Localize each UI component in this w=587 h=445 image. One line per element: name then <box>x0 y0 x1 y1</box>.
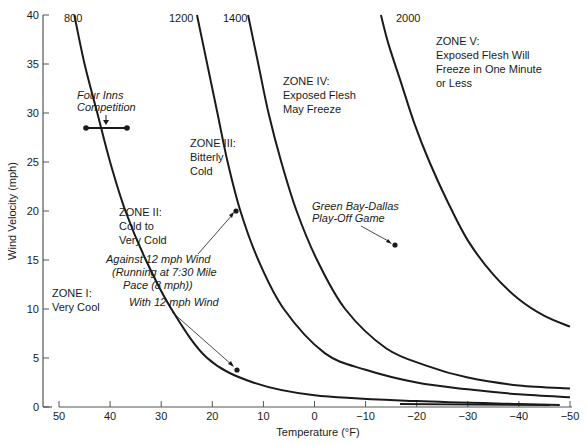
x-axis-title: Temperature (°F) <box>276 426 359 438</box>
svg-text:Pace (8 mph)): Pace (8 mph)) <box>123 279 193 291</box>
y-tick-label: 10 <box>27 303 39 315</box>
svg-text:ZONE IV:: ZONE IV: <box>283 75 330 87</box>
svg-text:ZONE III:: ZONE III: <box>190 137 236 149</box>
annotation-four-inns: Four Inns Competition <box>77 89 136 131</box>
x-tick-label: −30 <box>458 410 477 422</box>
curve-label-1200: 1200 <box>169 12 193 24</box>
curve-label-1400: 1400 <box>223 12 247 24</box>
x-tick-label: −20 <box>407 410 426 422</box>
x-axis: 50403020100−10−20−30−40−50 Temperature (… <box>43 401 579 438</box>
svg-text:Against 12 mph Wind: Against 12 mph Wind <box>105 253 211 265</box>
svg-text:Bitterly: Bitterly <box>190 151 224 163</box>
svg-text:Exposed Flesh Will: Exposed Flesh Will <box>436 49 530 61</box>
y-tick-label: 35 <box>27 58 39 70</box>
y-axis: 0510152025303540 Wind Velocity (mph) <box>6 9 49 413</box>
wind-chill-chart: 0510152025303540 Wind Velocity (mph) 504… <box>0 0 587 445</box>
zone-4-label: ZONE IV: Exposed Flesh May Freeze <box>283 75 356 115</box>
svg-text:Play-Off Game: Play-Off Game <box>312 212 385 224</box>
x-tick-label: 30 <box>155 410 167 422</box>
annotation-with-wind: With 12 mph Wind <box>129 296 240 373</box>
x-tick-label: 10 <box>257 410 269 422</box>
x-tick-label: 20 <box>206 410 218 422</box>
curve-label-800: 800 <box>64 12 82 24</box>
svg-text:Very Cold: Very Cold <box>119 234 167 246</box>
x-tick-label: −10 <box>356 410 375 422</box>
annotation-green-bay: Green Bay-Dallas Play-Off Game <box>312 200 399 248</box>
svg-text:Green Bay-Dallas: Green Bay-Dallas <box>312 200 399 212</box>
zone-5-label: ZONE V: Exposed Flesh Will Freeze in One… <box>436 35 542 89</box>
svg-text:ZONE V:: ZONE V: <box>436 35 480 47</box>
curve-2000 <box>381 15 570 327</box>
svg-text:ZONE II:: ZONE II: <box>119 206 162 218</box>
svg-text:ZONE I:: ZONE I: <box>52 287 92 299</box>
svg-text:Competition: Competition <box>77 101 136 113</box>
y-tick-label: 15 <box>27 254 39 266</box>
y-tick-label: 5 <box>33 352 39 364</box>
x-tick-label: −50 <box>561 410 580 422</box>
svg-text:May Freeze: May Freeze <box>283 103 341 115</box>
y-tick-label: 40 <box>27 9 39 21</box>
x-tick-label: 50 <box>53 410 65 422</box>
x-tick-label: 40 <box>104 410 116 422</box>
svg-text:or Less: or Less <box>436 77 473 89</box>
x-tick-label: 0 <box>311 410 317 422</box>
curve-label-2000: 2000 <box>396 12 420 24</box>
y-axis-title: Wind Velocity (mph) <box>6 162 18 260</box>
y-tick-label: 0 <box>33 401 39 413</box>
zone-1-label: ZONE I: Very Cool <box>52 287 100 313</box>
svg-text:Cold to: Cold to <box>119 220 154 232</box>
svg-text:Four Inns: Four Inns <box>77 89 124 101</box>
y-tick-label: 20 <box>27 205 39 217</box>
zone-2-label: ZONE II: Cold to Very Cold <box>119 206 167 246</box>
svg-text:Cold: Cold <box>190 165 213 177</box>
svg-text:With 12 mph Wind: With 12 mph Wind <box>129 296 220 308</box>
y-tick-label: 25 <box>27 156 39 168</box>
x-tick-label: −40 <box>510 410 529 422</box>
y-tick-label: 30 <box>27 107 39 119</box>
svg-text:(Running at 7:30 Mile: (Running at 7:30 Mile <box>112 266 217 278</box>
svg-text:Exposed Flesh: Exposed Flesh <box>283 89 356 101</box>
svg-text:Freeze in One Minute: Freeze in One Minute <box>436 63 542 75</box>
svg-text:Very Cool: Very Cool <box>52 301 100 313</box>
